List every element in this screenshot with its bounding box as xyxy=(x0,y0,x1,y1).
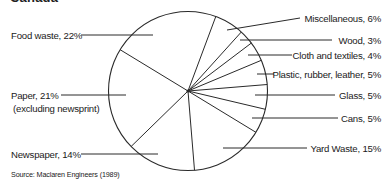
source-note: Source: Maclaren Engineers (1989) xyxy=(11,170,120,179)
label-yard-waste: Yard Waste, 15% xyxy=(310,143,381,154)
pie-chart: Canada Food waste, 22% Paper, 21% (exclu… xyxy=(0,0,386,191)
label-cans: Cans, 5% xyxy=(341,113,382,124)
leader-misc xyxy=(227,18,300,30)
label-miscellaneous: Miscellaneous, 6% xyxy=(304,13,381,24)
label-newspaper: Newspaper, 14% xyxy=(11,149,81,160)
pie-svg: Food waste, 22% Paper, 21% (excluding ne… xyxy=(0,0,386,191)
label-cloth-textiles: Cloth and textiles, 4% xyxy=(293,50,382,61)
label-plastic-rubber-leather: Plastic, rubber, leather, 5% xyxy=(272,69,381,80)
label-paper-sub: (excluding newsprint) xyxy=(13,103,99,114)
pie-center xyxy=(186,89,189,92)
label-food-waste: Food waste, 22% xyxy=(11,30,83,41)
label-paper: Paper, 21% xyxy=(11,90,59,101)
label-glass: Glass, 5% xyxy=(339,90,382,101)
label-wood: Wood, 3% xyxy=(339,35,382,46)
